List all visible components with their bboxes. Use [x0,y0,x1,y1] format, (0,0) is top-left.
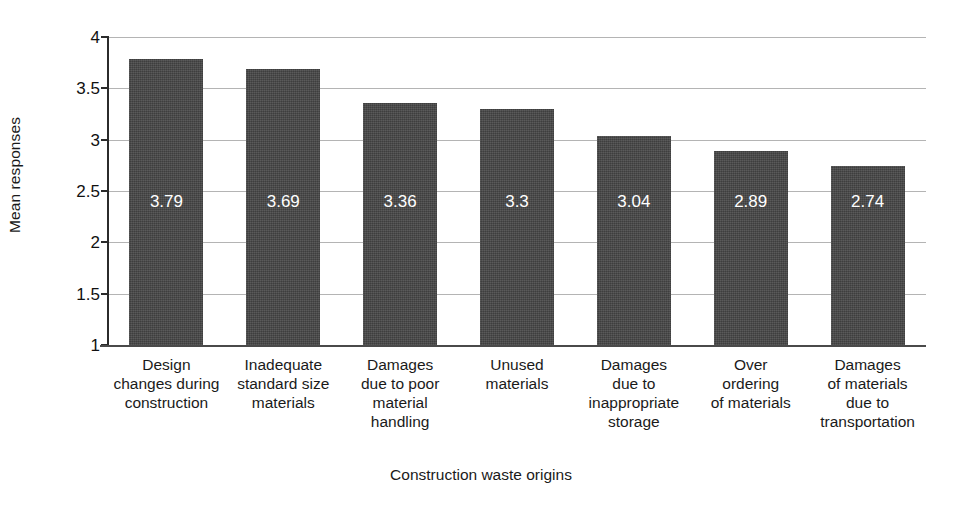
bar: 2.74 [831,166,905,345]
y-axis-tick [101,293,109,295]
x-axis-category-label: Designchanges duringconstruction [102,355,231,412]
y-axis-tick-labels: 43.532.521.51 [38,0,100,505]
x-axis-category-line: Over [686,355,815,374]
x-axis-category-label: Damagesof materialsdue totransportation [803,355,932,431]
x-axis-category-label: Damagesdue toinappropriatestorage [569,355,698,431]
x-axis-category-line: due to [569,374,698,393]
y-axis-title: Mean responses [0,0,30,350]
y-axis-tick-label: 2 [40,234,100,251]
x-axis-category-line: changes during [102,374,231,393]
x-axis-category-line: due to [803,393,932,412]
x-axis-line [100,345,926,347]
x-axis-category-label: Inadequatestandard sizematerials [219,355,348,412]
x-axis-category-line: of materials [686,393,815,412]
bar-chart-figure: Mean responses 43.532.521.51 3.793.693.3… [0,0,962,505]
bar: 3.36 [363,103,437,345]
bar-value-label: 2.74 [831,193,905,210]
x-axis-category-line: transportation [803,412,932,431]
y-axis-tick-label: 3 [40,131,100,148]
bar-value-label: 3.3 [480,193,554,210]
bar: 3.79 [129,59,203,345]
x-axis-category-line: material [336,393,465,412]
x-axis-category-line: handling [336,412,465,431]
x-axis-category-line: construction [102,393,231,412]
x-axis-category-label: Overorderingof materials [686,355,815,412]
x-axis-category-line: of materials [803,374,932,393]
y-axis-tick [101,139,109,141]
x-axis-category-label: Damagesdue to poormaterialhandling [336,355,465,431]
bar: 3.04 [597,136,671,345]
x-axis-category-line: inappropriate [569,393,698,412]
y-axis-tick-label: 4 [40,29,100,46]
y-axis-tick-label: 1 [40,337,100,354]
y-axis-tick-label: 3.5 [40,80,100,97]
y-axis-title-text: Mean responses [6,117,24,233]
gridline [108,37,926,38]
y-axis-tick-label: 1.5 [40,285,100,302]
bar-value-label: 3.69 [246,193,320,210]
bar-value-label: 2.89 [714,193,788,210]
y-axis-tick [101,241,109,243]
x-axis-category-line: Design [102,355,231,374]
gridline [108,88,926,89]
bar-value-label: 3.04 [597,193,671,210]
x-axis-category-line: Damages [569,355,698,374]
y-axis-tick [101,87,109,89]
bar: 3.69 [246,69,320,345]
bar-value-label: 3.79 [129,193,203,210]
x-axis-category-line: materials [453,374,582,393]
y-axis-tick-label: 2.5 [40,183,100,200]
plot-area: 3.793.693.363.33.042.892.74 [108,37,926,345]
bar-value-label: 3.36 [363,193,437,210]
x-axis-title: Construction waste origins [0,466,962,484]
x-axis-category-line: Unused [453,355,582,374]
y-axis-tick [101,190,109,192]
bar: 3.3 [480,109,554,345]
x-axis-category-line: Inadequate [219,355,348,374]
x-axis-category-line: ordering [686,374,815,393]
bar: 2.89 [714,151,788,345]
x-axis-category-line: Damages [803,355,932,374]
x-axis-category-line: due to poor [336,374,465,393]
x-axis-category-line: materials [219,393,348,412]
x-axis-category-line: Damages [336,355,465,374]
y-axis-tick [101,36,109,38]
x-axis-category-label: Unusedmaterials [453,355,582,393]
x-axis-category-line: storage [569,412,698,431]
x-axis-category-line: standard size [219,374,348,393]
